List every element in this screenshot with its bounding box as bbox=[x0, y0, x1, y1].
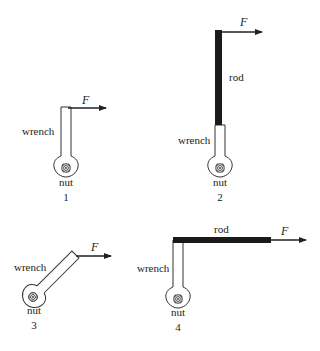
wrench-body bbox=[208, 125, 232, 177]
nut-label: nut bbox=[59, 176, 73, 188]
nut-label: nut bbox=[213, 176, 227, 188]
force-label: F bbox=[280, 224, 289, 238]
figure-3: F wrench nut 3 bbox=[14, 240, 111, 331]
force-label: F bbox=[81, 93, 90, 107]
figure-4: F rod wrench nut 4 bbox=[137, 223, 306, 333]
wrench-body bbox=[166, 240, 190, 308]
figure-2: F rod wrench nut 2 bbox=[178, 15, 262, 203]
wrench-label: wrench bbox=[178, 134, 211, 146]
rod-label: rod bbox=[214, 223, 229, 235]
wrench-torque-diagram: F wrench nut 1 F rod wrench nut 2 F wren… bbox=[0, 0, 320, 351]
wrench-label: wrench bbox=[137, 262, 170, 274]
rod-label: rod bbox=[229, 71, 244, 83]
nut-label: nut bbox=[171, 306, 185, 318]
rod bbox=[215, 30, 222, 125]
wrench-label: wrench bbox=[14, 261, 47, 273]
wrench-body bbox=[17, 246, 84, 313]
figure-number: 4 bbox=[175, 321, 181, 333]
force-label: F bbox=[90, 240, 99, 254]
rod bbox=[173, 237, 271, 243]
force-label: F bbox=[239, 15, 248, 29]
wrench-label: wrench bbox=[22, 125, 55, 137]
figure-number: 1 bbox=[63, 191, 69, 203]
figure-number: 2 bbox=[217, 191, 223, 203]
figure-number: 3 bbox=[31, 319, 37, 331]
figure-1: F wrench nut 1 bbox=[22, 93, 106, 203]
nut-label: nut bbox=[27, 304, 41, 316]
wrench-body bbox=[54, 107, 78, 177]
